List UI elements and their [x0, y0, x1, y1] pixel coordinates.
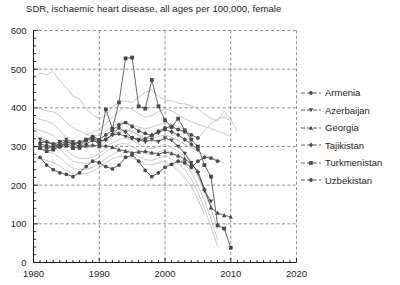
legend-item-turkmenistan[interactable]: Turkmenistan [300, 154, 400, 172]
chart-legend: ArmeniaAzerbaijanGeorgiaTajikistanTurkme… [300, 84, 400, 189]
circle-marker-icon [300, 174, 322, 186]
y-tick-label: 300 [11, 141, 27, 152]
circle-marker-icon [300, 87, 322, 99]
legend-item-georgia[interactable]: Georgia [300, 119, 400, 137]
x-tick-label: 1980 [23, 268, 44, 279]
x-tick-label: 2010 [220, 268, 241, 279]
y-tick-label: 100 [11, 218, 27, 229]
y-tick-label: 400 [11, 102, 27, 113]
x-tick-label: 2020 [286, 268, 307, 279]
legend-item-uzbekistan[interactable]: Uzbekistan [300, 172, 400, 190]
triangle-down-marker-icon [300, 104, 322, 116]
legend-item-label: Turkmenistan [325, 157, 382, 168]
diamond-marker-icon [300, 139, 322, 151]
legend-item-label: Armenia [325, 87, 360, 98]
x-tick-label: 2000 [154, 268, 175, 279]
legend-item-armenia[interactable]: Armenia [300, 84, 400, 102]
legend-item-label: Azerbaijan [325, 105, 370, 116]
y-tick-label: 0 [21, 257, 26, 268]
chart-series-group [34, 56, 238, 250]
legend-item-label: Tajikistan [325, 140, 364, 151]
legend-item-azerbaijan[interactable]: Azerbaijan [300, 102, 400, 120]
triangle-up-marker-icon [300, 122, 322, 134]
legend-item-label: Georgia [325, 122, 359, 133]
chart-container: SDR, ischaemic heart disease, all ages p… [0, 0, 400, 285]
x-tick-label: 1990 [89, 268, 110, 279]
y-tick-label: 600 [11, 25, 27, 36]
legend-item-tajikistan[interactable]: Tajikistan [300, 137, 400, 155]
y-tick-label: 200 [11, 180, 27, 191]
legend-item-label: Uzbekistan [325, 175, 372, 186]
y-tick-label: 500 [11, 64, 27, 75]
chart-series [99, 129, 217, 229]
square-marker-icon [300, 157, 322, 169]
